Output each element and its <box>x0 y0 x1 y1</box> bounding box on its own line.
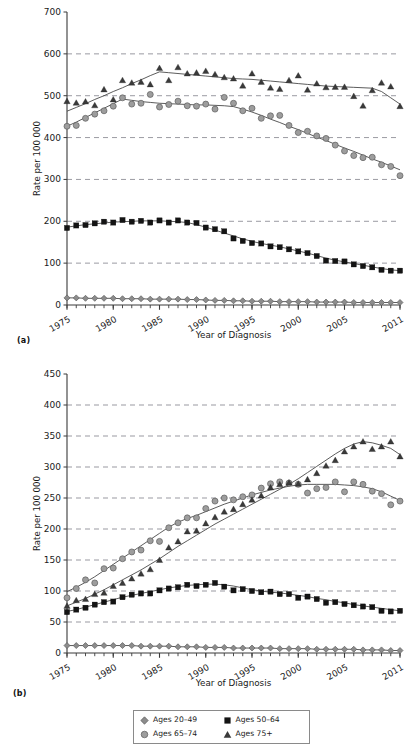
x-tick-label: 1985 <box>140 662 164 682</box>
circle-marker <box>92 580 98 586</box>
square-marker <box>83 605 88 610</box>
y-tick-label: 200 <box>44 216 61 226</box>
y-tick-label: 350 <box>44 431 61 441</box>
y-tick-label: 600 <box>44 49 61 59</box>
square-marker <box>268 589 273 594</box>
square-marker <box>92 602 97 607</box>
circle-marker <box>258 115 264 121</box>
diamond-marker <box>286 646 292 652</box>
triangle-marker <box>156 65 162 71</box>
y-tick-label: 500 <box>44 91 61 101</box>
circle-marker <box>166 525 172 531</box>
square-marker <box>360 604 365 609</box>
diamond-marker <box>240 298 246 304</box>
trend-line <box>67 442 400 606</box>
circle-marker <box>175 98 181 104</box>
circle-marker <box>295 130 301 136</box>
triangle-marker <box>212 514 218 520</box>
square-marker <box>259 241 264 246</box>
square-marker <box>351 262 356 267</box>
circle-marker <box>184 515 190 521</box>
circle-marker <box>184 103 190 109</box>
x-tick-label: 1985 <box>140 314 164 334</box>
triangle-marker <box>203 520 209 526</box>
square-marker <box>379 267 384 272</box>
series-ages-75 <box>64 438 403 608</box>
legend-label-ages-65-74: Ages 65–74 <box>153 730 197 738</box>
square-marker <box>222 584 227 589</box>
series-ages-20-49 <box>64 295 403 306</box>
triangle-marker <box>332 457 338 463</box>
y-tick-label: 400 <box>44 400 61 410</box>
diamond-marker <box>240 645 246 651</box>
triangle-marker <box>138 79 144 85</box>
square-marker <box>370 605 375 610</box>
y-axis-title: Rate per 100 000 <box>32 476 42 551</box>
triangle-marker <box>184 70 190 76</box>
circle-marker <box>249 105 255 111</box>
square-marker <box>212 580 217 585</box>
circle-marker <box>147 538 153 544</box>
circle-marker <box>369 488 375 494</box>
diamond-marker <box>194 297 200 303</box>
circle-marker <box>305 490 311 496</box>
circle-marker <box>240 494 246 500</box>
trend-line <box>67 99 400 170</box>
square-marker <box>64 609 69 614</box>
diamond-marker <box>101 295 107 301</box>
circle-marker <box>110 565 116 571</box>
circle-marker <box>212 106 218 112</box>
diamond-marker <box>332 646 338 652</box>
triangle-marker <box>378 80 384 86</box>
square-marker <box>268 244 273 249</box>
square-marker <box>333 258 338 263</box>
triangle-marker <box>64 98 70 104</box>
diamond-marker <box>73 295 79 301</box>
y-tick-label: 400 <box>44 133 61 143</box>
diamond-marker <box>184 644 190 650</box>
diamond-marker <box>305 646 311 652</box>
chart-legend: Ages 20–49 Ages 50–64 Ages 65–74 Ages 75… <box>133 710 310 744</box>
diamond-marker <box>64 643 70 649</box>
triangle-marker <box>203 68 209 74</box>
diamond-marker <box>231 298 237 304</box>
diamond-marker <box>92 295 98 301</box>
circle-marker <box>388 163 394 169</box>
circle-marker <box>110 103 116 109</box>
circle-marker <box>305 128 311 134</box>
circle-marker <box>369 154 375 160</box>
square-marker <box>323 600 328 605</box>
series-ages-65-74 <box>64 479 403 601</box>
diamond-marker <box>268 645 274 651</box>
triangle-marker <box>175 538 181 544</box>
diamond-marker <box>277 299 283 305</box>
diamond-marker <box>221 644 227 650</box>
square-marker <box>240 238 245 243</box>
square-marker <box>286 247 291 252</box>
x-tick-label: 2005 <box>325 314 349 334</box>
circle-marker <box>120 556 126 562</box>
diamond-marker <box>342 299 348 305</box>
y-tick-label: 100 <box>44 586 61 596</box>
square-marker <box>203 225 208 230</box>
x-tick-label: 1975 <box>48 314 72 334</box>
series-ages-65-74 <box>64 91 403 178</box>
diamond-marker <box>351 646 357 652</box>
chart-b-canvas: 050100150200250300350400450Rate per 100 … <box>0 360 413 747</box>
diamond-marker <box>138 643 144 649</box>
diamond-marker <box>157 643 163 649</box>
diamond-marker <box>203 644 209 650</box>
diamond-marker <box>323 299 329 305</box>
y-axis-title: Rate per 100 000 <box>32 121 42 196</box>
square-marker <box>388 268 393 273</box>
circle-marker <box>351 153 357 159</box>
y-tick-label: 300 <box>44 174 61 184</box>
x-tick-label: 1975 <box>48 662 72 682</box>
square-marker <box>231 588 236 593</box>
diamond-marker <box>314 299 320 305</box>
square-marker <box>148 220 153 225</box>
triangle-marker <box>277 86 283 92</box>
square-marker <box>222 229 227 234</box>
square-marker <box>388 609 393 614</box>
triangle-marker <box>82 98 88 104</box>
